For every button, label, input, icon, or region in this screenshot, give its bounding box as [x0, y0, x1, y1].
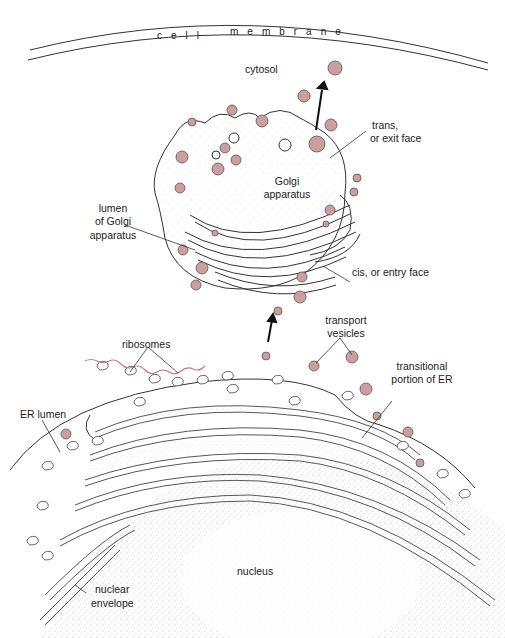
lumen-golgi-label-2: of Golgi [83, 215, 143, 227]
cis-face-label: cis, or entry face [352, 266, 429, 278]
lumen-golgi-label-1: lumen [88, 202, 138, 214]
trans-face-label-2: or exit face [370, 132, 421, 144]
ribosomes-label: ribosomes [122, 338, 170, 350]
transport-vesicles-label-2: vesicles [316, 327, 376, 339]
golgi-label-2: apparatus [255, 188, 319, 200]
diagram-illustration [0, 0, 505, 638]
nuclear-envelope-label-2: envelope [91, 597, 134, 609]
golgi-apparatus [154, 111, 360, 294]
transport-vesicles-label-1: transport [316, 314, 376, 326]
nucleus-label: nucleus [237, 565, 273, 577]
cell-membrane-label-1: cell [157, 30, 208, 42]
lumen-golgi-label-3: apparatus [80, 229, 146, 241]
trans-face-label-1: trans, [372, 119, 398, 131]
transitional-er-label-1: transitional [384, 360, 460, 372]
cell-membrane-label-2: membrane [230, 26, 350, 38]
diagram-canvas: cell membrane cytosol trans, or exit fac… [0, 0, 505, 638]
nuclear-envelope-label-1: nuclear [95, 583, 129, 595]
transitional-er-label-2: portion of ER [380, 373, 464, 385]
er-lumen-label: ER lumen [20, 408, 66, 420]
cytosol-label: cytosol [245, 63, 278, 75]
golgi-label-1: Golgi [262, 175, 312, 187]
